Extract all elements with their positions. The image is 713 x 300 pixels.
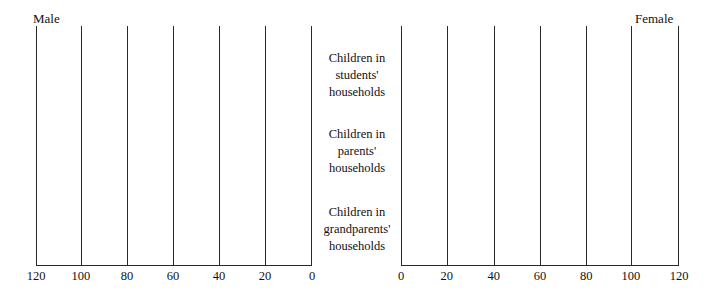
gridline — [447, 26, 448, 266]
gridline — [219, 26, 220, 266]
x-axis-tick-label: 40 — [488, 270, 501, 283]
gridline — [265, 26, 266, 266]
gridline — [81, 26, 82, 266]
category-label: Children instudents'households — [307, 50, 407, 101]
category-label: Children inparents'households — [307, 126, 407, 177]
x-axis-tick-label: 80 — [580, 270, 593, 283]
panel-header-male: Male — [33, 12, 60, 25]
category-label-line: parents' — [307, 143, 407, 160]
x-axis-tick-label: 40 — [213, 270, 226, 283]
plot-panel-female — [401, 26, 679, 266]
x-axis-tick-label: 20 — [259, 270, 272, 283]
gridline — [540, 26, 541, 266]
gridline — [173, 26, 174, 266]
category-label-line: Children in — [307, 204, 407, 221]
x-axis-tick-label: 20 — [441, 270, 454, 283]
category-label-column: Children instudents'householdsChildren i… — [313, 26, 401, 266]
category-label-line: households — [307, 160, 407, 177]
category-label-line: Children in — [307, 50, 407, 67]
gridline — [494, 26, 495, 266]
category-label-line: students' — [307, 67, 407, 84]
gridline — [36, 26, 37, 266]
gridline — [631, 26, 632, 266]
x-axis-tick-label: 100 — [622, 270, 641, 283]
x-axis-tick-label: 60 — [534, 270, 547, 283]
x-axis-ticks-male: 120100806040200 — [36, 270, 312, 290]
gridline — [586, 26, 587, 266]
category-label-line: households — [307, 238, 407, 255]
category-label-line: grandparents' — [307, 221, 407, 238]
panel-header-female: Female — [635, 12, 673, 25]
x-axis-tick-label: 0 — [398, 270, 404, 283]
category-label-line: Children in — [307, 126, 407, 143]
x-axis-tick-label: 120 — [670, 270, 689, 283]
category-label-line: households — [307, 84, 407, 101]
gridline — [678, 26, 679, 266]
plot-panel-male — [36, 26, 312, 266]
population-pyramid-chart: Male Female Children instudents'househol… — [0, 0, 713, 300]
gridline — [127, 26, 128, 266]
x-axis-tick-label: 0 — [309, 270, 315, 283]
x-axis-tick-label: 80 — [121, 270, 134, 283]
category-label: Children ingrandparents'households — [307, 204, 407, 255]
x-axis-tick-label: 120 — [27, 270, 46, 283]
axis-baseline-male — [36, 265, 312, 266]
x-axis-ticks-female: 020406080100120 — [401, 270, 679, 290]
x-axis-tick-label: 60 — [167, 270, 180, 283]
axis-baseline-female — [401, 265, 679, 266]
x-axis-tick-label: 100 — [72, 270, 91, 283]
